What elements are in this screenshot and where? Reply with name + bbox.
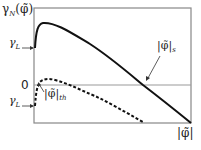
- gamma-l-bottom-label: γL: [9, 95, 20, 109]
- phi-s-arrow: [148, 56, 160, 78]
- zero-label: 0: [21, 79, 29, 91]
- diagram-canvas: [0, 0, 201, 150]
- x-axis-label: |φ̃|: [177, 127, 194, 139]
- gamma-l-top-label: γL: [9, 37, 20, 51]
- phi-s-label: |φ̃|s: [157, 40, 176, 54]
- y-axis-label: γN(φ̃): [2, 3, 33, 18]
- phi-th-label: |φ̃|th: [44, 88, 66, 102]
- solid-curve: [35, 23, 191, 123]
